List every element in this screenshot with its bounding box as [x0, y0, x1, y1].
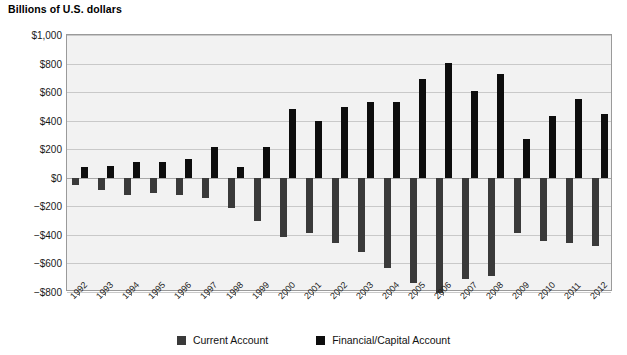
bar-current-account-1993	[98, 178, 106, 190]
x-axis-labels: 1992199319941995199619971998199920002001…	[66, 292, 612, 332]
bar-financial-capital-account-2004	[393, 102, 401, 178]
y-axis-tick-label: $600	[4, 87, 62, 98]
legend-item-financial[interactable]: Financial/Capital Account	[316, 334, 450, 346]
bar-series-group	[67, 35, 611, 290]
bar-financial-capital-account-2000	[289, 109, 297, 178]
bar-current-account-2010	[540, 178, 548, 242]
bar-financial-capital-account-2002	[341, 107, 349, 178]
y-axis-labels: $1,000$800$600$400$200$0−$200−$400−$600−…	[0, 34, 62, 291]
bar-current-account-2012	[592, 178, 600, 246]
legend-label: Financial/Capital Account	[332, 334, 450, 346]
bar-current-account-1995	[150, 178, 158, 194]
bar-financial-capital-account-1997	[211, 147, 219, 178]
bar-financial-capital-account-2011	[575, 99, 583, 178]
y-axis-tick-label: −$200	[4, 201, 62, 212]
bar-current-account-1996	[176, 178, 184, 195]
bar-financial-capital-account-2010	[549, 116, 557, 178]
bar-financial-capital-account-2003	[367, 102, 375, 178]
bar-current-account-1998	[228, 178, 236, 209]
bar-financial-capital-account-2008	[497, 74, 505, 178]
bar-current-account-2003	[358, 178, 366, 252]
y-axis-tick-label: $400	[4, 115, 62, 126]
chart-title: Billions of U.S. dollars	[8, 3, 122, 15]
bar-current-account-2007	[462, 178, 470, 279]
bar-current-account-2004	[384, 178, 392, 268]
bar-current-account-2001	[306, 178, 314, 234]
legend-swatch-icon	[177, 336, 186, 345]
bar-financial-capital-account-1995	[159, 162, 167, 178]
bar-current-account-2000	[280, 178, 288, 237]
y-axis-tick-label: $800	[4, 58, 62, 69]
bar-financial-capital-account-2009	[523, 139, 531, 178]
bar-financial-capital-account-1992	[81, 167, 89, 178]
y-axis-tick-label: −$600	[4, 258, 62, 269]
bar-financial-capital-account-1993	[107, 166, 115, 178]
bar-current-account-2011	[566, 178, 574, 244]
bar-financial-capital-account-2007	[471, 91, 479, 178]
y-axis-tick-label: −$800	[4, 287, 62, 298]
bar-current-account-2006	[436, 178, 444, 293]
legend-swatch-icon	[316, 336, 325, 345]
bar-current-account-2005	[410, 178, 418, 284]
bar-financial-capital-account-1999	[263, 147, 271, 178]
bar-current-account-1994	[124, 178, 132, 195]
bar-financial-capital-account-2012	[601, 114, 609, 178]
bar-current-account-2009	[514, 178, 522, 233]
bar-financial-capital-account-1998	[237, 167, 245, 178]
legend-item-current[interactable]: Current Account	[177, 334, 268, 346]
bar-financial-capital-account-2001	[315, 121, 323, 178]
bar-financial-capital-account-1996	[185, 159, 193, 178]
chart-container: Billions of U.S. dollars $1,000$800$600$…	[0, 0, 627, 355]
bar-financial-capital-account-2005	[419, 79, 427, 178]
legend-label: Current Account	[193, 334, 268, 346]
y-axis-tick-label: $200	[4, 144, 62, 155]
bar-financial-capital-account-1994	[133, 162, 141, 178]
y-axis-tick-label: −$400	[4, 229, 62, 240]
bar-current-account-1997	[202, 178, 210, 198]
y-axis-tick-label: $0	[4, 172, 62, 183]
chart-legend: Current AccountFinancial/Capital Account	[0, 330, 627, 350]
y-axis-tick-label: $1,000	[4, 30, 62, 41]
bar-current-account-1992	[72, 178, 80, 185]
plot-area	[66, 34, 612, 291]
bar-current-account-2008	[488, 178, 496, 277]
bar-financial-capital-account-2006	[445, 63, 453, 178]
bar-current-account-1999	[254, 178, 262, 221]
bar-current-account-2002	[332, 178, 340, 244]
